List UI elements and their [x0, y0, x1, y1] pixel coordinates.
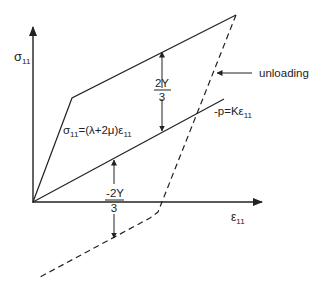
x-axis-label: ε11: [231, 210, 245, 226]
y-axis-label: σ11: [14, 49, 31, 66]
upper-frac-denominator: 3: [159, 91, 165, 103]
hydrostatic-equation: -p=Kε11: [214, 105, 253, 120]
hydrostatic-line: [33, 99, 224, 202]
upper-frac-numerator: 2Y: [155, 77, 169, 89]
lower-frac-denominator: 3: [111, 202, 117, 214]
stress-strain-diagram: σ11 ε11 σ11=(λ+2μ)ε11 -p=Kε11 unloading …: [0, 0, 320, 291]
unloading-label: unloading: [259, 67, 309, 79]
lower-frac-numerator: -2Y: [106, 187, 124, 199]
elastic-equation: σ11=(λ+2μ)ε11: [63, 124, 132, 139]
